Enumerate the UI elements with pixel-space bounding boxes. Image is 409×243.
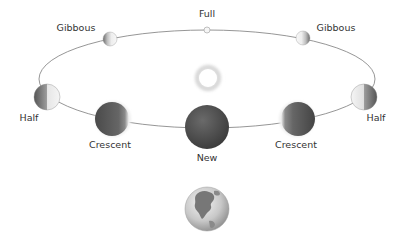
- moon-crescent-left: [95, 101, 131, 137]
- moon-gibbous-left: [103, 32, 117, 46]
- earth-icon: [185, 187, 229, 231]
- label-crescent-right: Crescent: [275, 139, 317, 150]
- label-new: New: [197, 152, 218, 163]
- moon-crescent-right: [279, 101, 315, 137]
- moon-full: [204, 27, 210, 33]
- sun-icon: [193, 63, 223, 93]
- moon-half-right: [351, 84, 377, 110]
- label-full: Full: [199, 8, 215, 19]
- moon-new: [185, 105, 229, 149]
- label-half-right: Half: [367, 112, 387, 123]
- moon-phases-diagram: Full Gibbous Gibbous Half Half Crescent …: [0, 0, 409, 243]
- label-gibbous-right: Gibbous: [317, 22, 356, 33]
- moon-gibbous-right: [296, 31, 310, 45]
- label-crescent-left: Crescent: [89, 139, 131, 150]
- label-half-left: Half: [20, 112, 40, 123]
- moon-half-left: [34, 84, 60, 110]
- label-gibbous-left: Gibbous: [57, 22, 96, 33]
